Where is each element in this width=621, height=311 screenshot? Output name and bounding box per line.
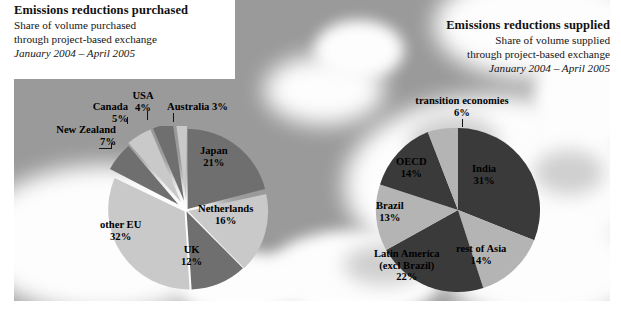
pie-label-brazil: Brazil 13% [376, 200, 404, 223]
left-title-line2: through project-based exchange [14, 32, 188, 46]
leader-line-canada [127, 117, 128, 124]
leader-line-usa [147, 111, 148, 120]
cloud-shadow [534, 150, 604, 195]
pie-label-australia: Australia 3% [167, 101, 228, 113]
figure-root: Emissions reductions purchased Share of … [0, 0, 621, 311]
left-title-period: January 2004 – April 2005 [14, 46, 188, 60]
left-title-heading: Emissions reductions purchased [14, 3, 188, 18]
pie-label-oecd: OECD 14% [396, 156, 427, 179]
right-title-line2: through project-based exchange [446, 47, 610, 61]
cloud-shape [314, 20, 404, 80]
pie-label-latin-america: Latin America (excl Brazil) 22% [374, 248, 440, 283]
pie-label-usa: USA 4% [121, 90, 165, 113]
pie-label-uk: UK 12% [181, 244, 202, 267]
pie-label-new-zealand: New Zealand 7% [22, 124, 116, 147]
pie-label-other-eu: other EU 32% [100, 219, 141, 242]
pie-label-japan: Japan 21% [200, 145, 228, 168]
pie-label-india: India 31% [472, 163, 496, 186]
left-title-line1: Share of volume purchased [14, 18, 188, 32]
pie-label-netherlands: Netherlands 16% [198, 203, 253, 226]
right-title-block: Emissions reductions supplied Share of v… [446, 18, 610, 75]
leader-line-new-zealand-drop [111, 143, 112, 149]
leader-line-transition-economies [462, 119, 463, 127]
pie-label-canada: Canada 5% [58, 101, 128, 124]
pie-label-transition-economies: transition economies 6% [398, 95, 526, 118]
leader-line-australia [173, 113, 174, 122]
pie-label-rest-of-asia: rest of Asia 14% [456, 243, 506, 266]
right-title-heading: Emissions reductions supplied [446, 18, 610, 33]
right-title-period: January 2004 – April 2005 [446, 61, 610, 75]
right-title-line1: Share of volume supplied [446, 33, 610, 47]
left-title-block: Emissions reductions purchased Share of … [14, 3, 188, 60]
